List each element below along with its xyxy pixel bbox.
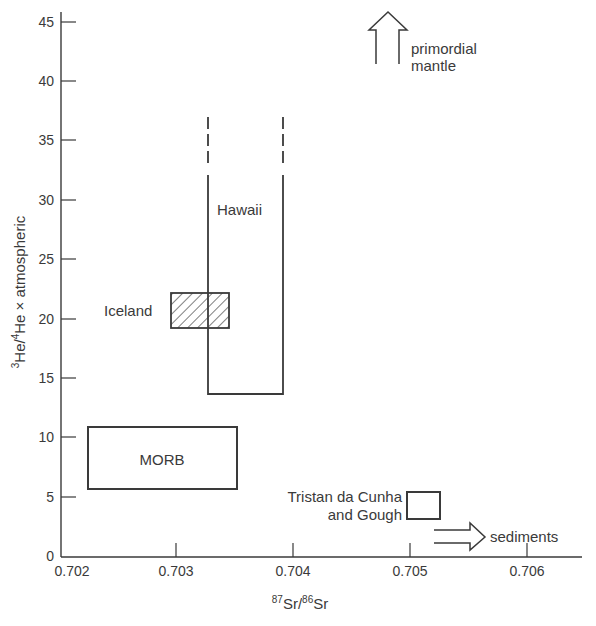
- x-ticks: [176, 543, 527, 557]
- x-tick-label: 0.703: [158, 563, 193, 579]
- y-tick-label: 30: [38, 192, 54, 208]
- arrow-right-icon: [434, 523, 485, 550]
- x-tick-label: 0.704: [275, 563, 310, 579]
- y-tick-label: 25: [38, 251, 54, 267]
- hawaii-label: Hawaii: [217, 201, 262, 218]
- x-tick-label: 0.702: [54, 563, 89, 579]
- x-tick-label: 0.705: [392, 563, 427, 579]
- y-tick-labels: 0 5 10 15 20 25 30 35 40 45: [38, 14, 54, 564]
- y-tick-label: 0: [46, 548, 54, 564]
- x-axis-title: 87Sr/86Sr: [272, 594, 328, 612]
- tristan-label-line1: Tristan da Cunha: [287, 488, 402, 505]
- y-axis-title: 3He/4He × atmospheric: [10, 215, 28, 368]
- y-tick-label: 35: [38, 132, 54, 148]
- y-tick-label: 5: [46, 489, 54, 505]
- primordial-label-line2: mantle: [411, 57, 456, 74]
- morb-label: MORB: [140, 451, 185, 468]
- iceland-label: Iceland: [104, 302, 152, 319]
- chart-canvas: 0 5 10 15 20 25 30 35 40 45 0.702 0.703 …: [0, 0, 596, 626]
- tristan-label-line2: and Gough: [328, 506, 402, 523]
- primordial-label-line1: primordial: [411, 40, 477, 57]
- hawaii-region: [208, 117, 283, 394]
- y-ticks: [61, 22, 76, 556]
- y-tick-label: 10: [38, 429, 54, 445]
- x-tick-label: 0.706: [509, 563, 544, 579]
- iceland-region: [171, 293, 229, 328]
- arrow-up-icon: [369, 12, 407, 64]
- y-tick-label: 40: [38, 73, 54, 89]
- sediments-label: sediments: [490, 528, 558, 545]
- y-tick-label: 15: [38, 370, 54, 386]
- y-tick-label: 20: [38, 311, 54, 327]
- tristan-region: [407, 492, 440, 519]
- x-tick-labels: 0.702 0.703 0.704 0.705 0.706: [54, 563, 544, 579]
- y-tick-label: 45: [38, 14, 54, 30]
